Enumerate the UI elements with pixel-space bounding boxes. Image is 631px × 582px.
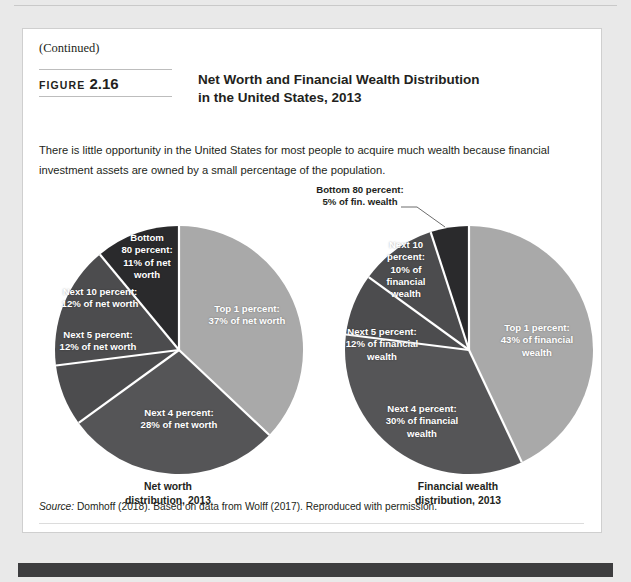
label-bottom-80-percent: Bottom 80 percent: 5% of fin. wealth <box>299 184 421 209</box>
figure-rule-bottom <box>39 96 172 97</box>
chart-financial-wealth: Top 1 percent: 43% of financial wealth N… <box>313 179 603 499</box>
source-note: Source: Domhoff (2018). Based on data fr… <box>39 501 584 512</box>
source-divider <box>39 523 584 524</box>
figure-number: FIGURE 2.16 <box>39 70 172 96</box>
label-next-5-percent: Next 5 percent: 12% of financial wealth <box>321 326 443 363</box>
continued-label: (Continued) <box>39 41 99 56</box>
figure-number-block: FIGURE 2.16 <box>39 69 172 97</box>
figure-title-line-1: Net Worth and Financial Wealth Distribut… <box>198 71 588 89</box>
label-bottom-80-percent: Bottom 80 percent: 11% of net worth <box>109 232 185 281</box>
callout-leader-line <box>401 207 445 227</box>
figure-card: (Continued) FIGURE 2.16 Net Worth and Fi… <box>22 28 602 533</box>
charts-container: Top 1 percent: 37% of net worth Next 4 p… <box>23 179 603 499</box>
source-label: Source: <box>39 501 74 512</box>
label-top-1-percent: Top 1 percent: 37% of net worth <box>193 303 301 328</box>
caption-line-1: Net worth <box>23 480 313 494</box>
figure-title: Net Worth and Financial Wealth Distribut… <box>198 71 588 107</box>
top-rule <box>14 5 617 6</box>
label-next-10-percent: Next 10 percent: 12% of net worth <box>35 286 165 311</box>
source-text: Domhoff (2018). Based on data from Wolff… <box>74 501 437 512</box>
label-next-4-percent: Next 4 percent: 30% of financial wealth <box>357 403 487 440</box>
label-top-1-percent: Top 1 percent: 43% of financial wealth <box>481 322 593 359</box>
figure-intro-text: There is little opportunity in the Unite… <box>39 141 584 180</box>
caption-line-1: Financial wealth <box>313 480 603 494</box>
figure-page: (Continued) FIGURE 2.16 Net Worth and Fi… <box>0 0 631 582</box>
figure-word: FIGURE <box>39 79 85 91</box>
label-next-4-percent: Next 4 percent: 28% of net worth <box>117 407 241 432</box>
figure-number-value: 2.16 <box>89 75 118 92</box>
chart-net-worth: Top 1 percent: 37% of net worth Next 4 p… <box>23 179 313 499</box>
label-next-10-percent: Next 10 percent: 10% of financial wealth <box>371 239 441 300</box>
bottom-bar <box>18 563 613 577</box>
label-next-5-percent: Next 5 percent: 12% of net worth <box>39 329 157 354</box>
figure-title-line-2: in the United States, 2013 <box>198 89 588 107</box>
